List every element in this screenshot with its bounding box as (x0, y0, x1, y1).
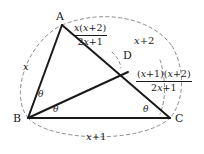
ad-num-close: ) (102, 22, 106, 33)
vertex-label-a: A (56, 11, 64, 22)
dc-num-p2-op: + (173, 68, 181, 79)
segment-label-dc-numerator: (x+1)(x+2) (136, 69, 192, 80)
ad-den-const: 1 (97, 36, 103, 47)
vertex-label-b: B (13, 113, 21, 124)
side-label-ac-op: + (140, 35, 148, 46)
dc-num-p1-op: + (146, 68, 154, 79)
dc-num-p2-close: ) (187, 68, 191, 79)
side-label-bc-const: 1 (100, 131, 106, 142)
side-label-ac: x+2 (134, 36, 154, 46)
geometry-figure: A B C D θ θ θ x x+1 x+2 x(x+2) 2x+1 (x+1… (0, 0, 204, 154)
segment-label-ad-numerator: x(x+2) (73, 23, 107, 34)
side-label-bc: x+1 (86, 132, 106, 142)
angle-label-bca: θ (143, 105, 148, 114)
angle-label-dbc: θ (53, 105, 58, 114)
vertex-label-c: C (175, 113, 183, 124)
ad-den-op: + (89, 36, 97, 47)
segment-label-ad: x(x+2) 2x+1 (73, 23, 107, 47)
segment-label-dc: (x+1)(x+2) 2x+1 (136, 69, 192, 93)
segment-label-ad-denominator: 2x+1 (73, 36, 107, 47)
dc-den-const: 1 (170, 82, 176, 93)
side-label-ab: x (23, 62, 29, 72)
side-label-bc-op: + (92, 131, 100, 142)
vertex-label-d: D (123, 50, 132, 61)
arc-segment-ad-marker (112, 52, 121, 68)
side-label-ac-const: 2 (148, 35, 154, 46)
angle-label-abd: θ (38, 90, 43, 99)
segment-label-dc-denominator: 2x+1 (136, 82, 192, 93)
